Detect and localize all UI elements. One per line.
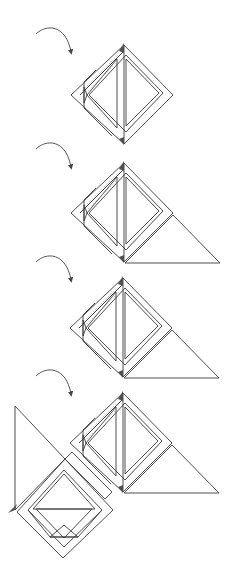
rotate-arrow-icon bbox=[36, 370, 71, 394]
step-2-block bbox=[71, 161, 220, 263]
step-3-block bbox=[70, 276, 219, 378]
rotate-arrow-icon bbox=[36, 28, 71, 52]
rotate-arrow-icon bbox=[36, 143, 71, 167]
step-4-block bbox=[70, 391, 219, 493]
step-1-block bbox=[71, 43, 173, 145]
quilt-assembly-diagram bbox=[0, 0, 238, 586]
rotate-arrow-icon bbox=[36, 256, 71, 280]
